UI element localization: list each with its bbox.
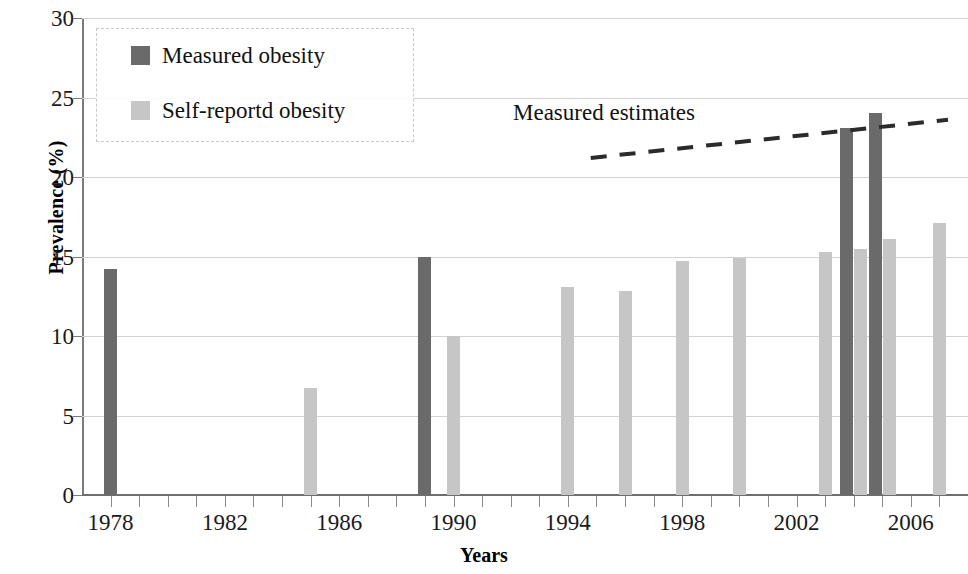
legend-label-measured-obesity: Measured obesity	[162, 44, 325, 67]
x-axis-tick-label: 1982	[202, 510, 248, 536]
obesity-prevalence-bar-chart: Prevalence (%) 051015202530 197819821986…	[0, 0, 968, 574]
y-axis-tick-mark	[73, 336, 82, 337]
x-axis-tick-label: 1990	[431, 510, 477, 536]
y-axis-tick-mark	[73, 416, 82, 417]
x-axis-tick-mark	[882, 496, 883, 507]
y-axis-tick-label: 0	[30, 484, 74, 507]
y-axis-tick-mark	[73, 18, 82, 19]
x-axis-tick-mark	[396, 496, 397, 507]
x-axis-tick-label: 1978	[88, 510, 134, 536]
y-axis-tick-mark	[73, 177, 82, 178]
y-axis-tick-mark	[73, 495, 82, 496]
x-axis-tick-label: 1994	[545, 510, 591, 536]
gridline	[82, 18, 968, 19]
y-axis-tick-labels: 051015202530	[0, 0, 74, 574]
y-axis-tick-label: 30	[30, 7, 74, 30]
x-axis-tick-mark	[482, 496, 483, 507]
x-axis-tick-mark	[225, 496, 226, 507]
bar	[561, 287, 574, 495]
bar	[869, 113, 882, 495]
bar	[676, 261, 689, 495]
x-axis-tick-mark	[339, 496, 340, 507]
x-axis-tick-mark	[282, 496, 283, 507]
x-axis-tick-mark	[768, 496, 769, 507]
bar	[304, 388, 317, 495]
x-axis-title: Years	[0, 544, 968, 567]
measured-estimates-annotation-label: Measured estimates	[513, 100, 695, 126]
x-axis-tick-mark	[539, 496, 540, 507]
x-axis-tick-mark	[168, 496, 169, 507]
y-axis-tick-label: 20	[30, 166, 74, 189]
x-axis-tick-mark	[825, 496, 826, 507]
bar	[933, 223, 946, 495]
y-axis-tick-mark	[73, 98, 82, 99]
x-axis-tick-mark	[568, 496, 569, 507]
bar	[418, 257, 431, 496]
legend-item-measured-obesity: Measured obesity	[131, 44, 325, 67]
x-axis-tick-mark	[454, 496, 455, 507]
y-axis-tick-label: 25	[30, 86, 74, 109]
y-axis-tick-mark	[73, 257, 82, 258]
gridline	[82, 177, 968, 178]
y-axis-tick-label: 5	[30, 404, 74, 427]
legend-swatch-self-reported-icon	[131, 101, 150, 120]
bar	[619, 291, 632, 495]
x-axis-tick-mark	[139, 496, 140, 507]
x-axis-tick-mark	[511, 496, 512, 507]
x-axis-tick-mark	[797, 496, 798, 507]
x-axis-tick-mark	[596, 496, 597, 507]
x-axis-tick-mark	[625, 496, 626, 507]
x-axis-tick-label: 2002	[774, 510, 820, 536]
y-axis-tick-label: 10	[30, 325, 74, 348]
x-axis-tick-mark	[682, 496, 683, 507]
legend-label-self-reported-obesity: Self-reportd obesity	[162, 99, 345, 122]
chart-legend: Measured obesity Self-reportd obesity	[96, 28, 414, 142]
x-axis-tick-mark	[739, 496, 740, 507]
bar	[104, 269, 117, 495]
x-axis-tick-label: 1986	[316, 510, 362, 536]
bar	[840, 128, 853, 495]
x-axis-tick-mark	[253, 496, 254, 507]
bar	[819, 252, 832, 495]
legend-item-self-reported-obesity: Self-reportd obesity	[131, 99, 345, 122]
x-axis-tick-mark	[711, 496, 712, 507]
legend-swatch-measured-icon	[131, 46, 150, 65]
x-axis-tick-mark	[196, 496, 197, 507]
x-axis-tick-label: 1998	[659, 510, 705, 536]
gridline	[82, 416, 968, 417]
x-axis-tick-mark	[425, 496, 426, 507]
x-axis-tick-label: 2006	[888, 510, 934, 536]
bar	[733, 258, 746, 495]
y-axis-tick-label: 15	[30, 245, 74, 268]
bar	[883, 239, 896, 495]
gridline	[82, 257, 968, 258]
x-axis-tick-mark	[939, 496, 940, 507]
x-axis-tick-mark	[111, 496, 112, 507]
x-axis-tick-mark	[368, 496, 369, 507]
x-axis-tick-mark	[911, 496, 912, 507]
gridline	[82, 336, 968, 337]
x-axis-tick-mark	[654, 496, 655, 507]
bar	[854, 249, 867, 495]
x-axis-tick-mark	[854, 496, 855, 507]
x-axis-tick-mark	[311, 496, 312, 507]
bar	[447, 336, 460, 495]
